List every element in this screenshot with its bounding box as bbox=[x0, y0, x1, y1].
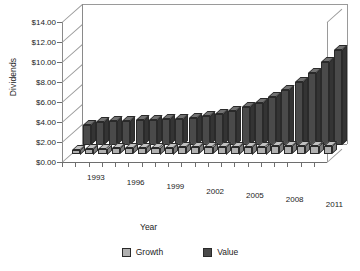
bar-growth bbox=[244, 147, 252, 155]
bar-growth bbox=[324, 146, 332, 154]
bar-value bbox=[149, 120, 157, 145]
bar-front-face bbox=[268, 97, 276, 145]
legend-label: Value bbox=[217, 248, 238, 257]
x-axis-tick bbox=[195, 162, 196, 167]
bar-value bbox=[83, 125, 91, 145]
bar-growth bbox=[284, 146, 292, 154]
x-axis-tick-label: 1999 bbox=[166, 182, 184, 191]
legend-item[interactable]: Value bbox=[203, 248, 238, 257]
x-axis-title: Year bbox=[140, 222, 157, 232]
bar-value bbox=[268, 97, 276, 145]
bar-growth bbox=[178, 147, 186, 154]
bar-growth bbox=[271, 146, 279, 154]
x-axis-tick bbox=[142, 162, 143, 167]
x-axis-tick bbox=[181, 162, 182, 167]
bar-value bbox=[334, 50, 342, 145]
x-axis-tick bbox=[274, 162, 275, 167]
x-axis-tick bbox=[89, 162, 90, 167]
x-axis-tick bbox=[301, 162, 302, 167]
bar-growth bbox=[85, 149, 93, 155]
bar-growth bbox=[138, 148, 146, 154]
bar-front-face bbox=[112, 148, 120, 154]
x-axis-tick bbox=[128, 162, 129, 167]
bar-front-face bbox=[202, 116, 210, 145]
x-axis-tick-label: 2005 bbox=[246, 191, 264, 200]
bar-front-face bbox=[136, 120, 144, 145]
bar-front-face bbox=[295, 82, 303, 145]
bar-front-face bbox=[242, 107, 250, 145]
bar-front-face bbox=[204, 147, 212, 154]
bar-front-face bbox=[98, 149, 106, 155]
legend-swatch-icon bbox=[203, 248, 212, 257]
bar-front-face bbox=[165, 148, 173, 155]
x-axis-tick bbox=[155, 162, 156, 167]
bar-front-face bbox=[231, 147, 239, 155]
x-axis-tick-label: 1993 bbox=[87, 173, 105, 182]
x-axis-tick bbox=[115, 162, 116, 167]
x-axis-tick bbox=[234, 162, 235, 167]
bar-growth bbox=[257, 147, 265, 155]
bar-value bbox=[162, 119, 170, 145]
x-axis-tick bbox=[314, 162, 315, 167]
bar-front-face bbox=[215, 114, 223, 145]
dividends-3d-bar-chart: $14.00$12.00$10.00$8.00$6.00$4.00$2.00$0… bbox=[0, 0, 360, 271]
bar-value bbox=[189, 118, 197, 145]
bar-growth bbox=[72, 150, 80, 155]
bar-value bbox=[215, 114, 223, 145]
bar-growth bbox=[231, 147, 239, 155]
bar-growth bbox=[218, 147, 226, 155]
bar-front-face bbox=[162, 119, 170, 145]
bar-front-face bbox=[308, 73, 316, 145]
bar-front-face bbox=[255, 103, 263, 145]
x-axis-tick bbox=[221, 162, 222, 167]
bar-growth bbox=[125, 148, 133, 154]
bar-front-face bbox=[96, 122, 104, 145]
bar-front-face bbox=[151, 148, 159, 155]
y-axis-title: Dividends bbox=[8, 42, 18, 112]
bar-front-face bbox=[125, 148, 133, 154]
bar-growth bbox=[112, 148, 120, 154]
bar-value bbox=[321, 62, 329, 145]
bar-growth bbox=[98, 149, 106, 155]
x-axis-tick bbox=[287, 162, 288, 167]
bar-value bbox=[242, 107, 250, 145]
bar-value bbox=[96, 122, 104, 145]
bar-growth bbox=[204, 147, 212, 154]
legend-item[interactable]: Growth bbox=[122, 248, 163, 257]
bar-front-face bbox=[109, 121, 117, 145]
bar-value bbox=[109, 121, 117, 145]
bar-value bbox=[175, 119, 183, 145]
bar-value bbox=[308, 73, 316, 145]
bar-front-face bbox=[83, 125, 91, 145]
x-axis-tick bbox=[248, 162, 249, 167]
x-axis-tick bbox=[75, 162, 76, 167]
bar-front-face bbox=[189, 118, 197, 145]
legend-label: Growth bbox=[136, 248, 163, 257]
bar-value bbox=[255, 103, 263, 145]
x-axis-tick bbox=[102, 162, 103, 167]
bar-front-face bbox=[218, 147, 226, 155]
bar-series-group bbox=[0, 0, 360, 271]
bar-front-face bbox=[321, 62, 329, 145]
bar-value bbox=[122, 121, 130, 145]
x-axis-tick bbox=[261, 162, 262, 167]
x-axis-tick bbox=[168, 162, 169, 167]
bar-value bbox=[281, 90, 289, 145]
bar-value bbox=[202, 116, 210, 145]
bar-growth bbox=[191, 147, 199, 154]
x-axis-tick-label: 2008 bbox=[286, 195, 304, 204]
x-axis-tick-label: 1996 bbox=[127, 178, 145, 187]
bar-value bbox=[228, 111, 236, 145]
x-axis-tick bbox=[62, 162, 63, 167]
bar-growth bbox=[165, 148, 173, 155]
bar-front-face bbox=[310, 146, 318, 154]
bar-growth bbox=[310, 146, 318, 154]
x-axis-tick-label: 2011 bbox=[326, 200, 343, 209]
bar-growth bbox=[297, 146, 305, 154]
bar-front-face bbox=[271, 146, 279, 154]
chart-legend: GrowthValue bbox=[0, 248, 360, 257]
x-axis-tick-label: 2002 bbox=[206, 187, 224, 196]
bar-front-face bbox=[324, 146, 332, 154]
bar-front-face bbox=[72, 150, 80, 155]
bar-front-face bbox=[257, 147, 265, 155]
